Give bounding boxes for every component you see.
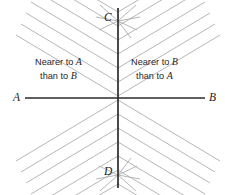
point-label-b: B	[209, 92, 216, 104]
perpendicular-bisector-figure: A B C D Nearer to A than to B Nearer to …	[0, 0, 225, 195]
point-label-d: D	[104, 166, 112, 178]
region-label-left: Nearer to A than to B	[35, 55, 82, 83]
region-label-right-line2: than to A	[131, 69, 178, 83]
region-label-left-line2: than to B	[35, 69, 82, 83]
point-label-c: C	[104, 12, 112, 24]
hatch-lower-left	[16, 100, 118, 195]
region-label-right: Nearer to B than to A	[131, 55, 178, 83]
figure-canvas	[0, 0, 225, 195]
point-label-a: A	[13, 92, 20, 104]
region-label-right-line1: Nearer to B	[131, 55, 178, 69]
hatch-lower-right	[118, 100, 220, 195]
region-label-left-line1: Nearer to A	[35, 55, 82, 69]
